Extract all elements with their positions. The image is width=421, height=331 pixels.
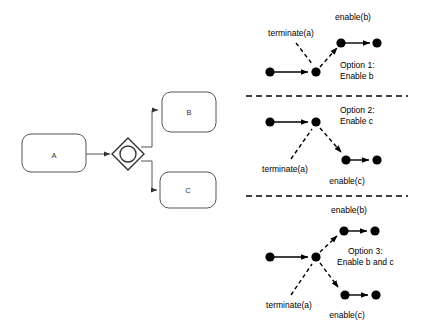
option-2-terminate-label: terminate(a) <box>262 164 308 174</box>
task-b-label: B <box>186 108 191 117</box>
option-1-title: Option 1: <box>340 60 375 70</box>
task-c[interactable]: C <box>160 172 216 208</box>
option-3-enable-c-label: enable(c) <box>329 310 365 320</box>
option-1-place-enable-b <box>336 38 345 47</box>
option-2-subtitle: Enable c <box>340 116 374 126</box>
option-3-place-enable-c <box>340 290 349 299</box>
option-3-place-sink-c <box>371 290 380 299</box>
process-diagram-figure: A B C terminate(a) enable(b) <box>0 0 421 331</box>
option-2-place-source <box>265 117 274 126</box>
gateway-event-circle <box>120 146 136 162</box>
option-2-place-middle <box>311 117 320 126</box>
option-1-enable-b-label: enable(b) <box>335 12 371 22</box>
task-a-label: A <box>51 151 56 160</box>
option-2-place-sink <box>372 155 381 164</box>
option-3-enable-b-label: enable(b) <box>331 205 367 215</box>
option-3-terminate-label: terminate(a) <box>266 300 312 310</box>
option-1-place-source <box>265 67 274 76</box>
option-3-title: Option 3: <box>348 246 383 256</box>
option-1-subtitle: Enable b <box>340 71 374 81</box>
option-3-place-source <box>265 252 274 261</box>
task-c-label: C <box>185 186 191 195</box>
option-3-place-middle <box>311 252 320 261</box>
option-3-place-sink-b <box>370 226 379 235</box>
option-1-place-middle <box>311 67 320 76</box>
task-a[interactable]: A <box>22 134 86 172</box>
option-1-terminate-label: terminate(a) <box>268 28 314 38</box>
option-2-place-enable-c <box>341 155 350 164</box>
task-b[interactable]: B <box>162 92 216 132</box>
option-2-title: Option 2: <box>340 105 375 115</box>
option-1-place-sink <box>372 38 381 47</box>
option-3-subtitle: Enable b and c <box>337 257 394 267</box>
option-2-enable-c-label: enable(c) <box>329 176 365 186</box>
option-3-place-enable-b <box>339 226 348 235</box>
